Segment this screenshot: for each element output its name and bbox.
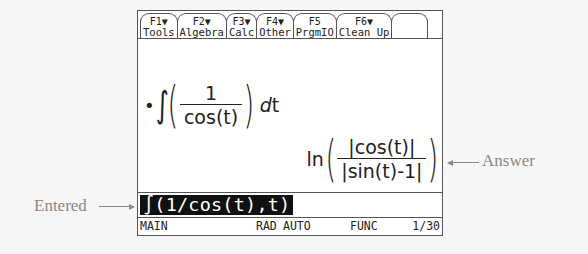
tab-f1-tools[interactable]: F1▼ Tools	[140, 13, 178, 39]
denominator: |sin(t)-1|	[337, 159, 426, 183]
differential-var: t	[272, 94, 279, 116]
tab-f6-clean-up[interactable]: F6▼ Clean Up	[336, 13, 393, 39]
function-key-toolbar: F1▼ Tools F2▼ Algebra F3▼ Calc F4▼ Other…	[140, 13, 427, 39]
right-paren: )	[428, 134, 439, 184]
tab-fkey: F4▼	[266, 16, 284, 27]
tab-fkey: F5	[309, 16, 321, 27]
fraction: 1 cos(t)	[180, 82, 242, 129]
entry-line[interactable]: ∫(1/cos(t),t)	[138, 192, 442, 217]
tab-label: Clean Up	[339, 27, 390, 38]
tab-label: Other	[259, 27, 291, 38]
tab-fkey: F2▼	[193, 16, 211, 27]
tab-f5-prgmio[interactable]: F5 PrgmIO	[293, 13, 337, 39]
tab-fkey: F1▼	[150, 16, 168, 27]
denominator: cos(t)	[180, 105, 242, 129]
tab-label: Calc	[229, 27, 254, 38]
entered-arrow-icon	[99, 206, 133, 207]
differential-d: d	[260, 94, 272, 116]
status-exact-mode: AUTO	[283, 218, 311, 235]
right-paren: )	[244, 80, 255, 130]
answer-annotation-label: Answer	[482, 151, 535, 171]
status-graph-mode: FUNC	[350, 218, 378, 235]
history-answer-expression[interactable]: ln ( |cos(t)| |sin(t)-1| )	[306, 134, 438, 184]
tab-f3-calc[interactable]: F3▼ Calc	[226, 13, 257, 39]
tab-fkey: F3▼	[232, 16, 250, 27]
left-paren: (	[168, 80, 179, 130]
history-area: • ∫ ( 1 cos(t) ) dt ln ( |cos(t)| |sin(t…	[138, 40, 442, 202]
left-paren: (	[325, 134, 336, 184]
history-entry-expression[interactable]: • ∫ ( 1 cos(t) ) dt	[144, 80, 279, 130]
fraction: |cos(t)| |sin(t)-1|	[337, 136, 426, 183]
tab-label: PrgmIO	[296, 27, 334, 38]
tab-label: Tools	[143, 27, 175, 38]
numerator: 1	[201, 82, 221, 104]
entered-annotation-label: Entered	[34, 196, 87, 216]
tab-f4-other[interactable]: F4▼ Other	[256, 13, 294, 39]
status-history-count: 1/30	[412, 218, 440, 235]
numerator: |cos(t)|	[344, 136, 419, 158]
ln-function: ln	[306, 148, 323, 170]
tab-fkey: F6▼	[355, 16, 373, 27]
differential: dt	[260, 94, 280, 116]
bullet-marker: •	[144, 95, 155, 116]
status-folder: MAIN	[140, 218, 168, 235]
tab-blank	[391, 13, 428, 39]
status-bar: MAIN RAD AUTO FUNC 1/30	[138, 217, 442, 235]
tab-label: Algebra	[180, 27, 224, 38]
calculator-screen: F1▼ Tools F2▼ Algebra F3▼ Calc F4▼ Other…	[137, 10, 443, 236]
status-angle-mode: RAD	[256, 218, 277, 235]
toolbar-divider	[138, 38, 442, 39]
entry-line-input[interactable]: ∫(1/cos(t),t)	[140, 195, 293, 215]
answer-arrow-icon	[449, 162, 479, 163]
tab-f2-algebra[interactable]: F2▼ Algebra	[177, 13, 227, 39]
